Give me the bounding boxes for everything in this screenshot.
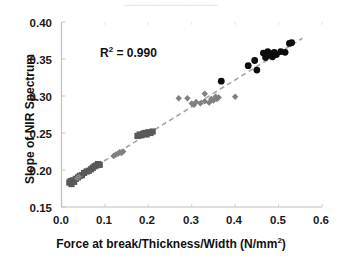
r-squared-value: = 0.990	[113, 46, 157, 60]
data-point-circle	[253, 67, 260, 74]
data-point-square	[150, 128, 156, 134]
data-point-circle	[288, 39, 295, 46]
data-point-diamond	[232, 94, 238, 100]
data-point-circle	[251, 57, 258, 64]
data-point-square	[97, 162, 103, 168]
xtick-label: 0.4	[217, 214, 251, 226]
xtick-label: 0.5	[261, 214, 295, 226]
scatter-chart-figure: ........................................…	[0, 0, 342, 258]
data-point-circle	[218, 78, 225, 85]
xtick-label: 0.3	[174, 214, 208, 226]
xtick-label: 0.6	[304, 214, 338, 226]
data-point-diamond	[202, 91, 208, 97]
xtick-label: 0.0	[44, 214, 78, 226]
x-axis-title-tail: )	[282, 237, 286, 251]
data-point-diamond	[184, 95, 190, 101]
y-axis-title: Slope of NIR Spectrum	[23, 25, 37, 213]
xtick-label: 0.1	[87, 214, 121, 226]
r-squared-prefix: R	[100, 46, 109, 60]
series-circle	[218, 39, 295, 84]
xtick-label: 0.2	[130, 214, 164, 226]
data-point-circle	[282, 49, 289, 56]
data-point-circle	[245, 62, 252, 69]
data-point-diamond	[176, 95, 182, 101]
x-axis-title-main: Force at break/Thickness/Width (N/mm	[56, 237, 277, 251]
x-axis-title: Force at break/Thickness/Width (N/mm2)	[0, 236, 342, 251]
r-squared-annotation: R2 = 0.990	[100, 45, 157, 60]
